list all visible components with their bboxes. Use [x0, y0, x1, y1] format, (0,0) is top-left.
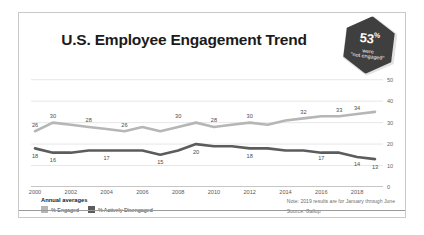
badge-hexagon: 53% were "not engaged": [338, 13, 401, 77]
chart-notes: Note: 2019 results are for January throu…: [287, 197, 395, 216]
data-label: 20: [193, 149, 199, 155]
x-axis-tick-label: 2016: [315, 189, 327, 195]
data-label: 15: [157, 159, 163, 165]
y-axis-tick-label: 40: [387, 98, 393, 104]
data-label: 26: [32, 122, 38, 128]
data-label: 14: [354, 161, 360, 167]
x-axis-tick-label: 2004: [100, 189, 112, 195]
x-axis-tick-label: 2008: [172, 189, 184, 195]
data-label: 18: [32, 153, 38, 159]
x-axis-tick-label: 2018: [351, 189, 363, 195]
stat-badge: 53% were "not engaged": [339, 15, 401, 77]
data-label: 30: [247, 113, 253, 119]
badge-number: 53: [359, 30, 375, 47]
data-label: 32: [300, 109, 306, 115]
badge-line-2: "not engaged": [350, 52, 384, 62]
y-axis-tick-label: 20: [387, 141, 393, 147]
badge-percent-sign: %: [374, 32, 381, 40]
chart-card: U.S. Employee Engagement Trend 53% were …: [18, 12, 406, 218]
data-label: 17: [318, 155, 324, 161]
x-axis-tick-label: 2002: [65, 189, 77, 195]
data-label: 33: [336, 107, 342, 113]
source-text: Source: Gallup: [287, 207, 395, 217]
data-label: 28: [211, 117, 217, 123]
data-label: 18: [247, 153, 253, 159]
data-label: 13: [372, 164, 378, 170]
y-axis-tick-label: 10: [387, 163, 393, 169]
y-axis-tick-label: 0: [387, 184, 390, 190]
x-axis-tick-label: 2010: [208, 189, 220, 195]
chart-svg: 26302826302830323334181617152018171413: [31, 69, 383, 187]
y-axis-tick-label: 30: [387, 120, 393, 126]
x-axis-tick-label: 2012: [244, 189, 256, 195]
x-axis-tick-label: 2006: [136, 189, 148, 195]
y-axis-tick-label: 50: [387, 77, 393, 83]
data-label: 16: [50, 157, 56, 163]
data-label: 17: [103, 155, 109, 161]
note-text: Note: 2019 results are for January throu…: [287, 197, 395, 207]
x-axis-tick-label: 2014: [279, 189, 291, 195]
badge-number-row: 53%: [359, 29, 381, 48]
data-label: 28: [86, 117, 92, 123]
data-label: 26: [121, 122, 127, 128]
bottom-divider: [19, 210, 405, 211]
data-label: 30: [50, 113, 56, 119]
legend-title: Annual averages: [41, 197, 153, 203]
page-title: U.S. Employee Engagement Trend: [19, 31, 349, 49]
line-chart-plot: 26302826302830323334181617152018171413: [31, 69, 383, 187]
data-label: 34: [354, 105, 360, 111]
x-axis-tick-label: 2000: [29, 189, 41, 195]
data-label: 30: [175, 113, 181, 119]
